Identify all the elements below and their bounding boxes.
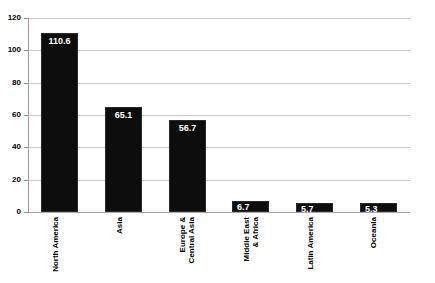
bar-value-label: 6.7 bbox=[233, 202, 268, 213]
gridline bbox=[28, 50, 410, 51]
bar[interactable]: 110.6 bbox=[41, 33, 78, 212]
x-axis-category-label: Middle East & Africa bbox=[242, 217, 260, 261]
y-tick-label: 0 bbox=[0, 208, 21, 216]
bar[interactable]: 56.7 bbox=[169, 120, 206, 212]
y-tick-mark bbox=[24, 212, 28, 213]
bar[interactable]: 65.1 bbox=[105, 107, 142, 212]
y-tick-mark bbox=[24, 18, 28, 19]
bar-value-label: 65.1 bbox=[106, 110, 141, 121]
axis-baseline bbox=[28, 212, 410, 213]
x-axis-category-label: Oceania bbox=[369, 217, 378, 248]
x-axis-category-label: Asia bbox=[115, 217, 124, 234]
y-tick-label: 60 bbox=[0, 111, 21, 119]
y-tick-label: 100 bbox=[0, 46, 21, 54]
y-tick-mark bbox=[24, 50, 28, 51]
gridline bbox=[28, 83, 410, 84]
bar[interactable]: 5.7 bbox=[296, 203, 333, 212]
y-tick-mark bbox=[24, 180, 28, 181]
y-tick-label: 80 bbox=[0, 79, 21, 87]
gridline bbox=[28, 18, 410, 19]
bar-chart: 020406080100120 110.665.156.76.75.75.3 N… bbox=[0, 0, 435, 283]
y-axis-spine bbox=[28, 18, 29, 213]
y-tick-mark bbox=[24, 83, 28, 84]
gridline bbox=[28, 147, 410, 148]
x-axis-category-label: Europe & Central Asia bbox=[178, 217, 196, 263]
plot-area bbox=[28, 18, 410, 212]
y-tick-label: 120 bbox=[0, 14, 21, 22]
x-axis-category-label: North America bbox=[51, 217, 60, 272]
bar-value-label: 110.6 bbox=[42, 36, 77, 47]
gridline bbox=[28, 115, 410, 116]
y-tick-mark bbox=[24, 147, 28, 148]
y-tick-mark bbox=[24, 115, 28, 116]
bar-value-label: 56.7 bbox=[170, 123, 205, 134]
gridline bbox=[28, 180, 410, 181]
y-tick-label: 40 bbox=[0, 143, 21, 151]
x-axis-category-label: Latin America bbox=[306, 217, 315, 270]
bar[interactable]: 5.3 bbox=[360, 203, 397, 212]
y-tick-label: 20 bbox=[0, 176, 21, 184]
bar[interactable]: 6.7 bbox=[232, 201, 269, 212]
bar-value-label: 5.3 bbox=[361, 204, 396, 215]
bar-value-label: 5.7 bbox=[297, 204, 332, 215]
